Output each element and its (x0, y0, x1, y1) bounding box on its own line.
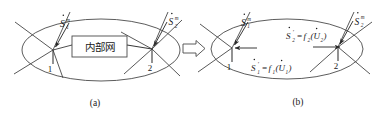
svg-text:2: 2 (175, 23, 178, 29)
panel-b-equation-s2: S 2 ′ = f 2 ( U 2 ) (286, 27, 327, 43)
svg-text:′: ′ (292, 28, 294, 35)
svg-text:S: S (60, 19, 65, 29)
panel-a: 内部网 S 1 m S 2 m 1 2 (a) (14, 12, 182, 109)
panel-a-arrow-s2m (154, 22, 167, 46)
svg-text:S: S (355, 17, 360, 27)
svg-text:): ) (323, 31, 327, 41)
panel-b-node-2-number: 2 (334, 61, 339, 71)
panel-b-equation-s1: S 1 ′ = f 1 ( U 1 ) (251, 59, 292, 75)
svg-text:2: 2 (292, 37, 295, 43)
svg-text:m: m (247, 16, 251, 22)
svg-text:m: m (175, 15, 179, 21)
panel-b-label-s2m: S 2 m (355, 12, 365, 28)
figure-container: 内部网 S 1 m S 2 m 1 2 (a) (0, 0, 387, 115)
panel-b: S 1 m S 2 m S 2 ′ = f 2 ( U 2 ) (198, 12, 372, 108)
svg-text:S: S (251, 63, 256, 73)
panel-a-node-1-number: 1 (48, 64, 53, 74)
transform-arrow (183, 41, 205, 57)
svg-text:m: m (361, 14, 365, 20)
panel-a-caption: (a) (90, 98, 101, 109)
panel-b-label-s1m: S 1 m (241, 13, 251, 29)
svg-text:m: m (66, 17, 70, 23)
svg-text:′: ′ (257, 60, 259, 67)
svg-text:1: 1 (66, 24, 69, 30)
panel-a-node-2-number: 2 (148, 63, 153, 73)
figure-svg: 内部网 S 1 m S 2 m 1 2 (a) (0, 0, 387, 115)
svg-text:1: 1 (247, 23, 250, 29)
svg-text:S: S (241, 18, 246, 28)
panel-b-node-1-number: 1 (227, 62, 232, 72)
svg-text:): ) (288, 63, 292, 73)
svg-text:U: U (314, 31, 321, 41)
svg-text:1: 1 (257, 69, 260, 75)
svg-text:U: U (279, 63, 286, 73)
svg-text:2: 2 (361, 22, 364, 28)
panel-a-internal-network-label: 内部网 (85, 41, 115, 53)
svg-text:S: S (286, 31, 291, 41)
panel-a-label-s2m: S 2 m (169, 13, 179, 29)
svg-text:=: = (297, 31, 303, 41)
svg-text:S: S (169, 17, 174, 27)
panel-b-caption: (b) (292, 97, 303, 108)
svg-text:=: = (262, 63, 268, 73)
